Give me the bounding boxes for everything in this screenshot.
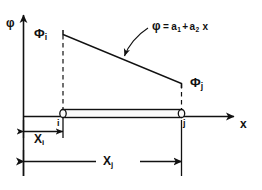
figure-canvas: φ x Φi Φj i j Xi Xj φ=a1+a2x xyxy=(0,0,262,190)
dimension-xi-label: Xi xyxy=(34,133,44,147)
potential-equation-label: φ=a1+a2x xyxy=(152,20,209,33)
xj-subscript: j xyxy=(111,160,113,169)
node-j-label: j xyxy=(183,119,186,128)
phi-j-symbol: Φ xyxy=(190,75,201,90)
equation-term2-subscript: 2 xyxy=(196,26,200,33)
finite-element-bar xyxy=(60,110,185,118)
equation-leader-line xyxy=(125,28,149,56)
x-axis-label: x xyxy=(240,118,247,130)
equation-plus-sign: + xyxy=(181,21,189,32)
equation-equals-sign: = xyxy=(161,21,171,32)
nodal-potential-j-label: Φj xyxy=(190,76,203,91)
nodal-potential-i-label: Φi xyxy=(34,27,47,42)
equation-variable: x xyxy=(200,21,209,32)
node-i-label: i xyxy=(57,119,60,128)
y-axis-label: φ xyxy=(6,17,15,29)
phi-i-symbol: Φ xyxy=(34,26,45,41)
phi-j-subscript: j xyxy=(201,81,203,91)
xi-symbol: X xyxy=(34,132,42,146)
potential-slope-line xyxy=(63,30,182,88)
xi-subscript: i xyxy=(42,138,44,147)
equation-lhs: φ xyxy=(152,19,161,33)
phi-i-subscript: i xyxy=(45,32,47,42)
xj-symbol: X xyxy=(103,154,111,168)
dimension-xj-label: Xj xyxy=(103,155,113,169)
